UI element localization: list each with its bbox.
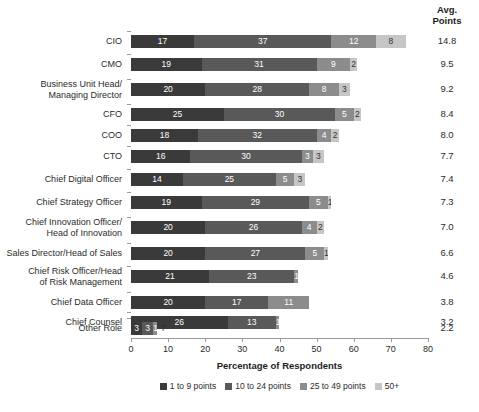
bar-segment: 2 (331, 129, 338, 142)
bar-segment: 27 (205, 247, 305, 260)
bar-segment: 1 (153, 322, 157, 335)
bar-segment: 17 (205, 296, 268, 309)
bar-segment: 13 (228, 316, 276, 329)
stacked-bar: 142553 (131, 173, 305, 186)
bar-segment: 2 (354, 108, 361, 121)
legend-item[interactable]: 10 to 24 points (225, 381, 291, 391)
y-axis-tick (127, 266, 131, 267)
legend-item[interactable]: 50+ (375, 381, 399, 391)
x-axis-tick-label: 50 (312, 344, 322, 354)
category-label-line: of Risk Management (0, 277, 122, 288)
avg-points-value: 14.8 (421, 35, 473, 46)
bar-segment: 31 (202, 58, 317, 71)
y-axis-tick (127, 125, 131, 126)
bar-segment: 1 (324, 247, 328, 260)
avg-points-value: 6.6 (421, 247, 473, 258)
bar-segment: 2 (317, 221, 324, 234)
x-axis-tick-label: 10 (163, 344, 173, 354)
stacked-bar: 202883 (131, 83, 350, 96)
bar-segment: 3 (302, 150, 313, 163)
category-label-line: CTO (0, 151, 122, 162)
y-axis-tick (127, 243, 131, 244)
bar-segment: 19 (131, 58, 202, 71)
stacked-bar: 21231 (131, 270, 298, 283)
category-label: Chief Risk Officer/Headof Risk Managemen… (0, 266, 122, 287)
legend-item[interactable]: 25 to 49 points (300, 381, 366, 391)
x-axis-tick-label: 20 (200, 344, 210, 354)
category-label-line: Chief Data Officer (0, 297, 122, 308)
bar-segment: 14 (131, 173, 183, 186)
bar-segment: 29 (202, 196, 310, 209)
x-axis-tick (205, 338, 206, 342)
avg-points-value: 7.3 (421, 196, 473, 207)
y-axis-tick (127, 192, 131, 193)
stacked-bar: 331 (131, 322, 157, 335)
bar-segment: 25 (131, 108, 224, 121)
category-label-line: Chief Strategy Officer (0, 197, 122, 208)
bar-segment: 37 (194, 35, 331, 48)
bar-segment: 16 (131, 150, 190, 163)
bar-segment: 26 (205, 221, 302, 234)
legend-label: 10 to 24 points (235, 381, 291, 391)
y-axis-tick (127, 54, 131, 55)
bar-segment: 17 (131, 35, 194, 48)
legend-swatch-icon (160, 383, 167, 390)
avg-points-header-line1: Avg. (421, 4, 473, 15)
stacked-bar: 183242 (131, 129, 339, 142)
x-axis-tick-label: 0 (128, 344, 133, 354)
stacked-bar: 1737128 (131, 35, 406, 48)
plot-area: CIO173712814.8CMO1931929.5Business Unit … (0, 28, 479, 334)
legend-swatch-icon (225, 383, 232, 390)
category-label-line: Sales Director/Head of Sales (0, 248, 122, 259)
stacked-bar: 163033 (131, 150, 324, 163)
bar-segment: 8 (309, 83, 339, 96)
y-axis-tick (127, 312, 131, 313)
x-axis-tick-label: 40 (274, 344, 284, 354)
bar-segment: 19 (131, 196, 202, 209)
bar-outside-label: 7 (161, 322, 166, 335)
bar-segment: 28 (205, 83, 309, 96)
avg-points-value: 4.6 (421, 270, 473, 281)
x-axis-tick-label: 70 (386, 344, 396, 354)
avg-points-value: 8.4 (421, 108, 473, 119)
bar-segment: 2 (350, 58, 357, 71)
stacked-bar: 193192 (131, 58, 357, 71)
stacked-bar: 253052 (131, 108, 361, 121)
x-axis-title: Percentage of Respondents (131, 360, 428, 371)
y-axis-tick (127, 292, 131, 293)
legend-label: 1 to 9 points (170, 381, 216, 391)
category-label: CTO (0, 151, 122, 162)
category-label: Other Role (0, 323, 122, 334)
category-label: Sales Director/Head of Sales (0, 248, 122, 259)
category-label: Chief Strategy Officer (0, 197, 122, 208)
bar-segment: 3 (131, 322, 142, 335)
category-label-line: COO (0, 130, 122, 141)
stacked-bar: 201711 (131, 296, 309, 309)
bar-segment: 25 (183, 173, 276, 186)
bar-segment: 5 (309, 196, 328, 209)
legend-item[interactable]: 1 to 9 points (160, 381, 216, 391)
bar-segment: 20 (131, 296, 205, 309)
x-axis-tick (280, 338, 281, 342)
bar-segment: 3 (142, 322, 153, 335)
bar-segment: 30 (224, 108, 335, 121)
category-label-line: CIO (0, 36, 122, 47)
bar-segment: 5 (276, 173, 295, 186)
x-axis-tick-label: 30 (237, 344, 247, 354)
bar-segment: 3 (294, 173, 305, 186)
avg-points-value: 9.2 (421, 83, 473, 94)
category-label: CFO (0, 109, 122, 120)
y-axis-tick (127, 318, 131, 319)
category-label-line: Chief Risk Officer/Head (0, 266, 122, 277)
avg-points-value: 8.0 (421, 129, 473, 140)
x-axis-tick (242, 338, 243, 342)
avg-points-value: 2.2 (421, 322, 473, 333)
stacked-bar: 202642 (131, 221, 324, 234)
bar-segment: 32 (198, 129, 317, 142)
y-axis-tick (127, 217, 131, 218)
x-axis-tick-label: 60 (349, 344, 359, 354)
avg-points-value: 7.7 (421, 150, 473, 161)
x-axis-tick (428, 338, 429, 342)
category-label: CIO (0, 36, 122, 47)
y-axis-tick (127, 104, 131, 105)
